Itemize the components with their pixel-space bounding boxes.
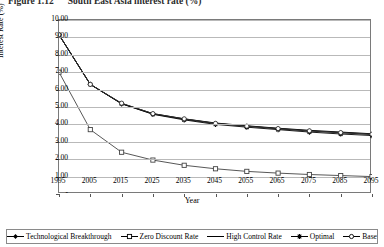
- gridline: [59, 90, 370, 91]
- figure-title-text: South East Asia interest rate (%): [68, 0, 202, 6]
- series-line: [59, 35, 372, 134]
- legend-entry[interactable]: Zero Discount Rate: [121, 232, 199, 241]
- gridline: [59, 37, 370, 38]
- gridline: [59, 159, 370, 160]
- legend-swatch-asterisk: [291, 232, 308, 241]
- legend-swatch-diamond: [7, 232, 24, 241]
- y-axis-tick-label: 3.00: [24, 137, 68, 145]
- gridline: [59, 142, 370, 143]
- legend-entry[interactable]: High Control Rate: [207, 232, 281, 241]
- legend-label: Technological Breakthrough: [26, 232, 112, 241]
- y-axis-tick-label: 5.00: [24, 102, 68, 110]
- series-marker-open-square: [245, 169, 249, 173]
- legend-swatch-open-circle: [343, 232, 360, 241]
- plot-area: [58, 19, 371, 193]
- series-marker-diamond: [13, 234, 18, 239]
- series-marker-open-square: [276, 171, 280, 175]
- series-line: [59, 35, 372, 136]
- series-marker-open-square: [127, 234, 131, 238]
- y-axis-tick-label: 4.00: [24, 119, 68, 127]
- series-marker-open-square: [182, 163, 186, 167]
- series-marker-open-circle: [350, 234, 354, 238]
- series-marker-open-circle: [151, 112, 155, 116]
- series-marker-open-circle: [120, 101, 124, 105]
- gridline: [59, 124, 370, 125]
- gridline: [59, 20, 370, 21]
- legend-label: Zero Discount Rate: [140, 232, 199, 241]
- y-axis-tick-label: 7.00: [24, 67, 68, 75]
- series-marker-asterisk: [297, 234, 302, 239]
- series-marker-open-circle: [307, 129, 311, 133]
- y-axis-tick-label: 6.00: [24, 85, 68, 93]
- gridline: [59, 72, 370, 73]
- series-line: [59, 35, 372, 134]
- series-marker-open-circle: [339, 130, 343, 134]
- y-axis-tick-label: 2.00: [24, 154, 68, 162]
- series-base: [59, 33, 372, 137]
- series-marker-open-circle: [276, 126, 280, 130]
- chart-legend: Technological BreakthroughZero Discount …: [6, 229, 378, 244]
- series-high-control-rate: [59, 35, 372, 134]
- series-marker-open-circle: [182, 117, 186, 121]
- gridline: [59, 55, 370, 56]
- series-marker-open-square: [213, 167, 217, 171]
- y-axis-tick-label: 8.00: [24, 50, 68, 58]
- legend-entry[interactable]: Base: [343, 232, 377, 241]
- figure-container: Figure 1.12South East Asia interest rate…: [0, 0, 384, 247]
- y-axis-tick-label: 9.00: [24, 32, 68, 40]
- legend-entry[interactable]: Technological Breakthrough: [7, 232, 112, 241]
- y-axis-tick-label: -: [24, 189, 68, 197]
- series-marker-open-circle: [88, 82, 92, 86]
- series-marker-open-square: [88, 128, 92, 132]
- y-axis-tick-label: 10.00: [24, 15, 68, 23]
- y-axis-label: Interest Rate (%): [0, 3, 5, 58]
- legend-swatch-open-square: [121, 232, 138, 241]
- legend-label: High Control Rate: [226, 232, 281, 241]
- series-marker-open-square: [120, 150, 124, 154]
- legend-swatch-none: [207, 232, 224, 241]
- legend-label: Base: [362, 232, 377, 241]
- figure-title: Figure 1.12South East Asia interest rate…: [8, 0, 378, 8]
- x-axis-tick-label: 2095: [351, 176, 384, 185]
- x-axis-label: Year: [0, 196, 384, 205]
- series-line: [59, 35, 372, 135]
- legend-label: Optimal: [310, 232, 335, 241]
- gridline: [59, 107, 370, 108]
- legend-entry[interactable]: Optimal: [291, 232, 335, 241]
- series-marker-open-circle: [370, 132, 372, 136]
- figure-number: Figure 1.12: [8, 0, 54, 6]
